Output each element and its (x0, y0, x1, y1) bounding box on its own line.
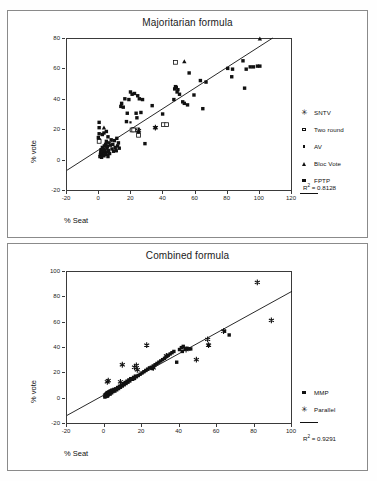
series-bloc-vote (102, 36, 262, 129)
y-tick-label: 100 (40, 268, 60, 274)
y-tick-mark (62, 423, 65, 424)
trendline (67, 291, 292, 415)
legend-marker-star-icon: ✳ (298, 110, 310, 116)
x-tick-label: 60 (213, 428, 220, 434)
y-tick-label: -20 (40, 420, 60, 426)
data-point-open-square (137, 133, 141, 137)
data-point-star (269, 318, 274, 324)
x-tick-label: 20 (138, 428, 145, 434)
data-point-square (226, 67, 229, 70)
y-tick-mark (62, 296, 65, 297)
legend-label: MMP (314, 389, 329, 396)
y-tick-mark (62, 99, 65, 100)
chart-title-combined: Combined formula (8, 250, 367, 261)
data-point-square (139, 111, 142, 114)
r-squared-combined: R2 = 0.9291 (303, 434, 336, 442)
x-tick-label: -20 (62, 428, 71, 434)
data-point-square (118, 147, 121, 150)
legend-item-parallel[interactable]: ✳Parallel (298, 401, 335, 418)
y-tick-label: 20 (40, 369, 60, 375)
x-tick-mark (66, 424, 67, 427)
x-tick-mark (162, 191, 163, 194)
trendline (67, 38, 273, 170)
legend-item-two-round[interactable]: Two round (298, 121, 344, 138)
y-axis-label-combined: % vote (29, 380, 38, 403)
y-tick-mark (62, 129, 65, 130)
y-tick-mark (62, 160, 65, 161)
data-point-square (120, 102, 123, 105)
data-point-open-square (132, 128, 136, 132)
data-point-square (97, 132, 100, 135)
data-point-square (97, 136, 100, 139)
data-point-square (143, 142, 146, 145)
data-point-small-square (129, 121, 131, 123)
data-point-square (192, 93, 195, 96)
legend-label: Two round (314, 126, 344, 133)
chart-title-majoritarian: Majoritarian formula (8, 17, 367, 28)
marker-shape (303, 145, 306, 148)
legend-item-av[interactable]: AV (298, 138, 344, 155)
chart-panel-majoritarian: Majoritarian formula -20020406080100120-… (7, 10, 368, 238)
data-point-square (111, 143, 114, 146)
x-tick-mark (66, 191, 67, 194)
x-tick-mark (104, 424, 105, 427)
data-point-star (205, 337, 210, 343)
marker-shape (302, 391, 306, 395)
data-point-square (199, 79, 202, 82)
data-point-star (194, 357, 199, 363)
data-point-small-square (116, 150, 118, 152)
legend-combined: MMP✳Parallel (298, 384, 335, 425)
data-point-square (106, 135, 109, 138)
y-tick-label: 60 (40, 65, 60, 71)
y-tick-mark (62, 322, 65, 323)
data-point-square (178, 93, 181, 96)
data-point-square (176, 88, 179, 91)
x-tick-label: 100 (286, 428, 296, 434)
y-tick-mark (62, 190, 65, 191)
data-point-square (230, 75, 233, 78)
data-point-square (109, 138, 112, 141)
data-point-square (243, 86, 246, 89)
data-point-square (106, 145, 109, 148)
legend-trendline-swatch (300, 422, 318, 423)
data-point-square (172, 350, 175, 353)
legend-label: SNTV (314, 109, 331, 116)
data-point-square (97, 121, 100, 124)
legend-marker-square-icon (298, 391, 310, 395)
y-tick-label: 20 (40, 126, 60, 132)
data-point-square (107, 149, 110, 152)
x-axis-label-majoritarian: % Seat (64, 216, 88, 225)
x-tick-label: 40 (175, 428, 182, 434)
legend-item-bloc-vote[interactable]: Bloc Vote (298, 155, 344, 172)
data-point-square (172, 98, 175, 101)
marker-shape (302, 162, 306, 166)
y-tick-mark (62, 372, 65, 373)
data-point-square (204, 80, 207, 83)
plot-area-combined (66, 271, 292, 424)
data-point-square (126, 112, 129, 115)
data-point-square (249, 65, 252, 68)
legend-marker-square-icon (298, 179, 310, 183)
y-tick-mark (62, 347, 65, 348)
data-point-square (105, 130, 108, 133)
x-tick-label: 120 (286, 195, 296, 201)
x-tick-label: 60 (191, 195, 198, 201)
x-tick-label: 80 (223, 195, 230, 201)
x-tick-label: 100 (254, 195, 264, 201)
data-point-star (255, 280, 260, 286)
data-point-star (120, 362, 125, 368)
x-tick-mark (179, 424, 180, 427)
x-tick-mark (291, 424, 292, 427)
y-tick-label: 40 (40, 96, 60, 102)
r-squared-majoritarian: R2 = 0.8128 (303, 183, 336, 191)
data-point-square (115, 137, 118, 140)
legend-item-mmp[interactable]: MMP (298, 384, 335, 401)
y-tick-label: -20 (40, 187, 60, 193)
data-point-square (189, 347, 192, 350)
x-tick-mark (254, 424, 255, 427)
legend-item-sntv[interactable]: ✳SNTV (298, 104, 344, 121)
data-point-square (138, 97, 141, 100)
data-point-square (201, 107, 204, 110)
legend-marker-star-icon: ✳ (298, 407, 310, 413)
data-point-square (187, 71, 190, 74)
